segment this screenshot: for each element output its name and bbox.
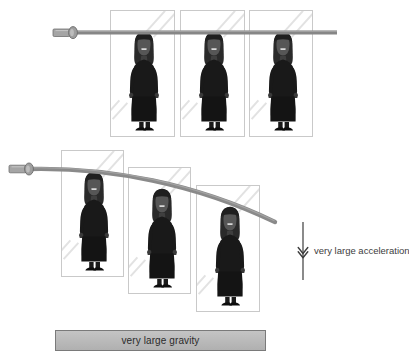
glass-panel <box>196 185 260 312</box>
panel-sheen-icon <box>130 259 146 277</box>
glass-panel <box>180 10 245 137</box>
panel-sheen-icon <box>63 242 79 260</box>
panel-sheen-icon <box>93 150 115 174</box>
panel-sheen-icon <box>180 100 190 127</box>
acceleration-label: very large acceleration <box>314 246 409 256</box>
diagram-canvas: very large acceleration very large gravi… <box>0 0 409 361</box>
glass-panel <box>249 10 313 137</box>
glass-panel <box>110 10 175 137</box>
down-arrow-icon <box>296 222 310 280</box>
gravity-label: very large gravity <box>122 336 200 346</box>
panel-sheen-icon <box>251 102 267 120</box>
glass-panel <box>61 150 124 277</box>
panel-sheen-icon <box>169 167 191 195</box>
panel-sheen-icon <box>61 240 71 267</box>
panel-sheen-icon <box>160 167 182 191</box>
panel-sheen-icon <box>249 100 259 127</box>
panel-sheen-icon <box>153 10 175 38</box>
panel-sheen-icon <box>282 10 304 34</box>
panel-sheen-icon <box>128 257 138 284</box>
panel-sheen-icon <box>229 185 251 209</box>
rod-handle-icon <box>53 27 77 39</box>
panel-sheen-icon <box>110 100 120 127</box>
panel-sheen-icon <box>196 275 206 302</box>
rod-handle-icon <box>9 163 33 175</box>
panel-sheen-icon <box>144 10 166 34</box>
gravity-bar: very large gravity <box>55 330 266 351</box>
panel-sheen-icon <box>238 185 260 213</box>
glass-panel <box>128 167 191 294</box>
panel-sheen-icon <box>291 10 313 38</box>
panel-sheen-icon <box>223 10 245 38</box>
panel-sheen-icon <box>102 150 124 178</box>
panel-sheen-icon <box>214 10 236 34</box>
panel-sheen-icon <box>198 277 214 295</box>
acceleration-annotation: very large acceleration <box>296 222 409 280</box>
panel-sheen-icon <box>182 102 198 120</box>
panel-sheen-icon <box>112 102 128 120</box>
